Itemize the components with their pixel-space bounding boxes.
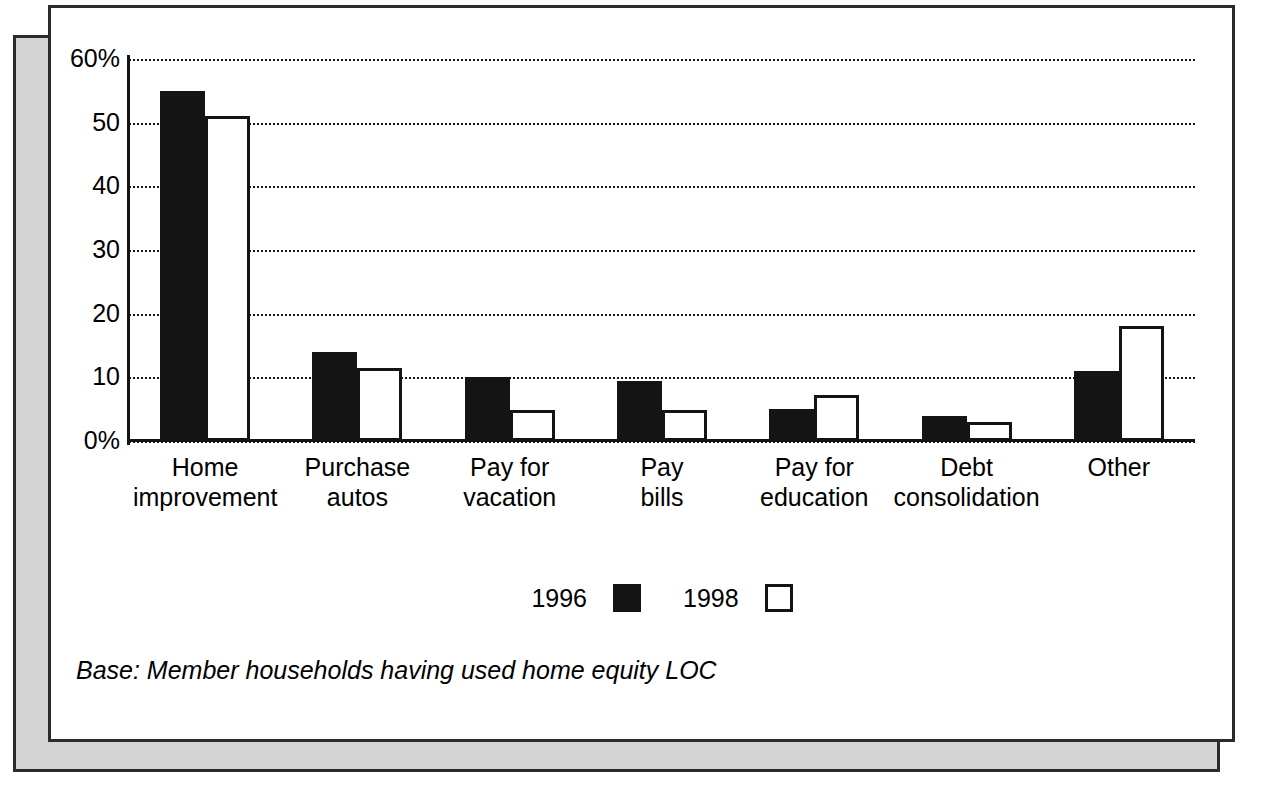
bar-1998-other	[1119, 326, 1164, 441]
category-label-line: improvement	[129, 482, 281, 512]
bars-layer	[129, 59, 1195, 441]
bar-group	[129, 59, 281, 441]
y-tick-label: 20	[92, 301, 120, 326]
bar-1998-pay-bills	[662, 410, 707, 441]
category-label: Pay foreducation	[738, 452, 890, 512]
category-label-line: consolidation	[890, 482, 1042, 512]
category-label: Debtconsolidation	[890, 452, 1042, 512]
category-label-line: Pay for	[738, 452, 890, 482]
category-label-line: Debt	[890, 452, 1042, 482]
bar-group	[890, 59, 1042, 441]
category-label-line: Pay	[586, 452, 738, 482]
bar-group	[586, 59, 738, 441]
x-axis-category-labels: HomeimprovementPurchaseautosPay forvacat…	[129, 452, 1195, 522]
y-tick-label: 10	[92, 364, 120, 389]
category-label: Pay forvacation	[434, 452, 586, 512]
category-label-line: Home	[129, 452, 281, 482]
bar-1998-pay-for-vacation	[510, 410, 555, 441]
bar-1996-purchase-autos	[312, 352, 357, 441]
bar-group	[281, 59, 433, 441]
bar-1998-purchase-autos	[357, 368, 402, 441]
chart-legend: 19961998	[129, 578, 1195, 618]
category-label-line: education	[738, 482, 890, 512]
category-label-line: autos	[281, 482, 433, 512]
chart-figure: 0%102030405060% HomeimprovementPurchasea…	[0, 0, 1266, 791]
legend-label: 1996	[531, 586, 587, 611]
bar-group	[434, 59, 586, 441]
base-note: Base: Member households having used home…	[76, 655, 717, 685]
legend-label: 1998	[683, 586, 739, 611]
category-label-line: Other	[1043, 452, 1195, 482]
category-label: Homeimprovement	[129, 452, 281, 512]
bar-1996-debt-consolidation	[922, 416, 967, 441]
category-label-line: Purchase	[281, 452, 433, 482]
y-tick-label: 0%	[84, 428, 120, 453]
legend-swatch-hollow-square	[765, 584, 793, 612]
legend-item-1996: 1996	[531, 584, 641, 612]
bar-1996-pay-bills	[617, 381, 662, 441]
category-label: Other	[1043, 452, 1195, 482]
category-label-line: Pay for	[434, 452, 586, 482]
category-label-line: vacation	[434, 482, 586, 512]
bar-1996-pay-for-vacation	[465, 377, 510, 441]
bar-1998-debt-consolidation	[967, 422, 1012, 441]
bar-1996-pay-for-education	[769, 409, 814, 441]
bar-group	[1043, 59, 1195, 441]
legend-item-1998: 1998	[683, 584, 793, 612]
y-axis-labels: 0%102030405060%	[52, 59, 120, 441]
y-tick-label: 50	[92, 110, 120, 135]
legend-swatch-filled-square	[613, 584, 641, 612]
bar-chart: 0%102030405060% HomeimprovementPurchasea…	[0, 0, 1266, 791]
bar-1996-home-improvement	[160, 91, 205, 441]
y-tick-label: 40	[92, 173, 120, 198]
y-tick-label: 30	[92, 237, 120, 262]
bar-1998-home-improvement	[205, 116, 250, 441]
category-label-line: bills	[586, 482, 738, 512]
y-tick-label: 60%	[70, 46, 120, 71]
category-label: Paybills	[586, 452, 738, 512]
bar-1998-pay-for-education	[814, 395, 859, 441]
bar-group	[738, 59, 890, 441]
bar-1996-other	[1074, 371, 1119, 441]
category-label: Purchaseautos	[281, 452, 433, 512]
